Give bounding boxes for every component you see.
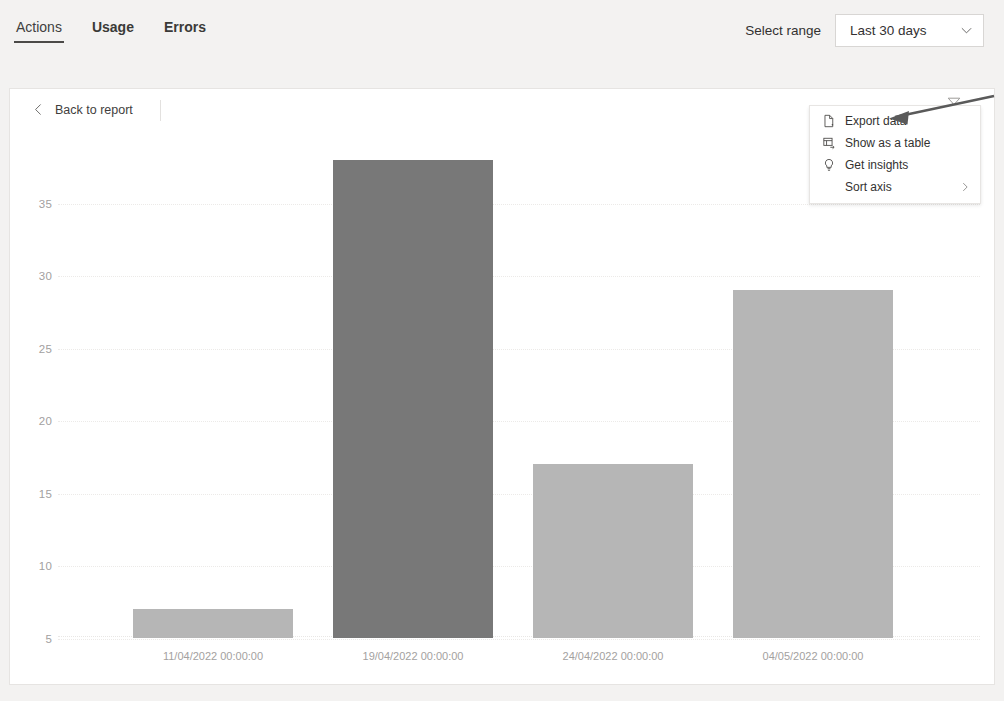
tab-actions-label: Actions [16, 19, 62, 35]
y-tick-label: 20 [10, 415, 52, 427]
tab-errors-label: Errors [164, 19, 206, 35]
y-tick-label: 35 [10, 198, 52, 210]
menu-item-export-data[interactable]: Export data [810, 110, 980, 132]
menu-item-get-insights[interactable]: Get insights [810, 154, 980, 176]
lightbulb-icon [822, 158, 836, 172]
bar-chart-plot: 35 30 25 20 15 10 5 0 11/04/2022 00:00:0… [10, 135, 994, 684]
range-select[interactable]: Last 30 days [835, 14, 984, 47]
y-tick-label: 15 [10, 488, 52, 500]
back-to-report-button[interactable]: Back to report [32, 102, 133, 117]
x-tick-label-3: 04/05/2022 00:00:00 [713, 650, 913, 662]
actions-report-page: Actions Usage Errors Select range Last 3… [0, 0, 1004, 701]
range-control: Select range Last 30 days [745, 14, 984, 47]
menu-item-sort-axis[interactable]: Sort axis [810, 176, 980, 198]
menu-item-export-data-label: Export data [845, 114, 970, 128]
tab-usage[interactable]: Usage [90, 18, 136, 43]
x-tick-label-1: 19/04/2022 00:00:00 [313, 650, 513, 662]
x-tick-label-0: 11/04/2022 00:00:00 [113, 650, 313, 662]
bar-series: 11/04/2022 00:00:00 19/04/2022 00:00:00 … [58, 135, 980, 684]
x-tick-label-2: 24/04/2022 00:00:00 [513, 650, 713, 662]
chart-context-menu: Export data Show as a table Get insights [809, 105, 981, 204]
tab-usage-label: Usage [92, 19, 134, 35]
menu-item-show-as-a-table[interactable]: Show as a table [810, 132, 980, 154]
y-tick-label: 25 [10, 343, 52, 355]
header-divider [160, 100, 161, 121]
bar-2[interactable] [533, 464, 693, 638]
chevron-down-icon [960, 24, 973, 37]
tab-actions[interactable]: Actions [14, 18, 64, 43]
y-tick-label: 5 [10, 633, 52, 645]
bar-1[interactable] [333, 160, 493, 638]
tab-errors[interactable]: Errors [162, 18, 208, 43]
bar-3[interactable] [733, 290, 893, 638]
chart-card: Back to report 35 30 25 20 15 10 [9, 88, 995, 685]
table-icon [822, 136, 836, 150]
menu-item-show-as-a-table-label: Show as a table [845, 136, 970, 150]
y-tick-label: 10 [10, 560, 52, 572]
menu-item-get-insights-label: Get insights [845, 158, 970, 172]
y-tick-label: 30 [10, 270, 52, 282]
range-select-value: Last 30 days [850, 23, 960, 38]
top-bar: Actions Usage Errors Select range Last 3… [0, 0, 1004, 68]
export-document-icon [822, 114, 836, 128]
chevron-left-icon [32, 102, 45, 117]
report-tabs: Actions Usage Errors [14, 18, 208, 43]
bar-0[interactable] [133, 609, 293, 638]
chevron-right-icon [960, 182, 970, 192]
back-to-report-label: Back to report [55, 103, 133, 117]
menu-item-sort-axis-label: Sort axis [845, 180, 951, 194]
select-range-label: Select range [745, 23, 821, 38]
